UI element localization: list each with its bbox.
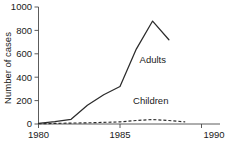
x-tick-label-1990: 1990 bbox=[203, 129, 224, 140]
line-chart: Number of cases 1000 800 600 400 200 0 1… bbox=[0, 0, 240, 141]
y-tick-label-600: 600 bbox=[16, 48, 32, 59]
x-tick-label-1985: 1985 bbox=[109, 129, 130, 140]
x-axis-ticks bbox=[39, 124, 202, 128]
y-tick-label-800: 800 bbox=[16, 25, 32, 36]
series-line-children bbox=[39, 120, 186, 124]
series-line-adults bbox=[39, 21, 169, 123]
x-tick-label-1980: 1980 bbox=[28, 129, 49, 140]
y-tick-label-200: 200 bbox=[16, 95, 32, 106]
series-annotation-adults: Adults bbox=[140, 54, 167, 65]
series-annotation-children: Children bbox=[133, 95, 168, 106]
chart-figure: Number of cases 1000 800 600 400 200 0 1… bbox=[0, 0, 240, 141]
y-tick-label-400: 400 bbox=[16, 72, 32, 83]
y-axis-title: Number of cases bbox=[2, 32, 13, 104]
y-tick-label-0: 0 bbox=[27, 118, 32, 129]
y-axis-ticks bbox=[35, 7, 39, 124]
y-tick-label-1000: 1000 bbox=[11, 1, 32, 12]
